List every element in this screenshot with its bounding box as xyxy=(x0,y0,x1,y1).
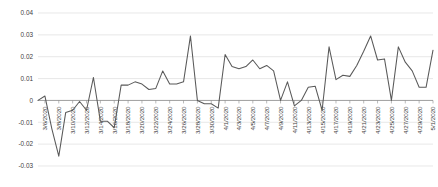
data-series xyxy=(38,36,433,156)
y-tick-label: 0.02 xyxy=(21,53,34,60)
x-tick-label: 4/21/2020 xyxy=(360,106,367,134)
x-tick-label: 3/24/2020 xyxy=(166,106,173,134)
x-tick-label: 4/17/2020 xyxy=(332,106,339,134)
x-tick-label: 4/7/2020 xyxy=(263,106,270,131)
x-tick-label: 4/29/2020 xyxy=(416,106,423,134)
x-tick-label: 3/28/2020 xyxy=(194,106,201,134)
y-tick-label: 0.04 xyxy=(21,9,34,16)
series-line-value xyxy=(38,36,433,156)
x-tick-label: 4/1/2020 xyxy=(222,106,229,131)
x-tick-label: 3/18/2020 xyxy=(124,106,131,134)
x-tick-label: 3/8/2020 xyxy=(55,106,62,131)
y-tick-label: 0.03 xyxy=(21,31,34,38)
x-tick-label: 3/26/2020 xyxy=(180,106,187,134)
y-tick-label: 0.01 xyxy=(21,75,34,82)
x-tick-label: 4/11/2020 xyxy=(291,106,298,134)
x-tick-label: 4/9/2020 xyxy=(277,106,284,131)
x-tick-label: 4/19/2020 xyxy=(346,106,353,134)
x-tick-label: 3/20/2020 xyxy=(138,106,145,134)
x-tick-label: 4/25/2020 xyxy=(388,106,395,134)
x-tick-label: 3/30/2020 xyxy=(208,106,215,134)
line-chart: -0.03-0.02-0.0100.010.020.030.04 3/6/202… xyxy=(0,0,438,187)
x-tick-label: 4/27/2020 xyxy=(402,106,409,134)
gridlines xyxy=(38,13,433,166)
y-tick-label: -0.03 xyxy=(18,162,33,169)
y-tick-label: -0.01 xyxy=(18,119,33,126)
x-tick-label: 4/3/2020 xyxy=(235,106,242,131)
y-axis-tick-labels: -0.03-0.02-0.0100.010.020.030.04 xyxy=(18,9,33,169)
y-tick-label: 0 xyxy=(29,97,33,104)
x-tick-label: 4/5/2020 xyxy=(249,106,256,131)
x-tick-label: 5/1/2020 xyxy=(429,106,436,131)
x-tick-label: 4/13/2020 xyxy=(305,106,312,134)
x-tick-label: 3/22/2020 xyxy=(152,106,159,134)
chart-container: -0.03-0.02-0.0100.010.020.030.04 3/6/202… xyxy=(0,0,438,187)
x-tick-label: 4/23/2020 xyxy=(374,106,381,134)
y-tick-label: -0.02 xyxy=(18,140,33,147)
